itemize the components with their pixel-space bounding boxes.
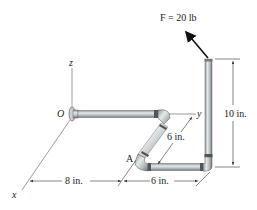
dimension-bottom-segment: 6 in. — [124, 172, 210, 186]
force-label: F = 20 lb — [160, 12, 196, 23]
y-axis: y — [168, 108, 202, 119]
z-axis-label: z — [68, 57, 73, 68]
x-axis: x — [11, 120, 70, 200]
origin-label: O — [57, 108, 64, 119]
dimension-6in-bottom-label: 6 in. — [151, 175, 169, 186]
dimension-6in-diagonal-label: 6 in. — [167, 131, 185, 142]
y-axis-label: y — [196, 108, 202, 119]
pipe-segment-oy — [78, 110, 158, 118]
x-axis-label: x — [11, 189, 17, 200]
force-vector: F = 20 lb — [160, 12, 208, 58]
dimension-10in-label: 10 in. — [224, 108, 247, 119]
dimension-8in-label: 8 in. — [65, 175, 83, 186]
elbow-bottom-right — [203, 156, 212, 171]
dimension-x-offset: 8 in. — [30, 160, 136, 186]
elbow-top — [158, 110, 170, 124]
pipe-assembly-diagram: z x y O A — [0, 0, 257, 210]
pipe-segment-diagonal — [138, 123, 168, 158]
point-a-label: A — [126, 153, 134, 164]
pipe-segment-vertical — [205, 59, 213, 157]
pipe-segment-bottom — [148, 163, 203, 171]
dimension-vertical-height: 10 in. — [215, 59, 247, 167]
